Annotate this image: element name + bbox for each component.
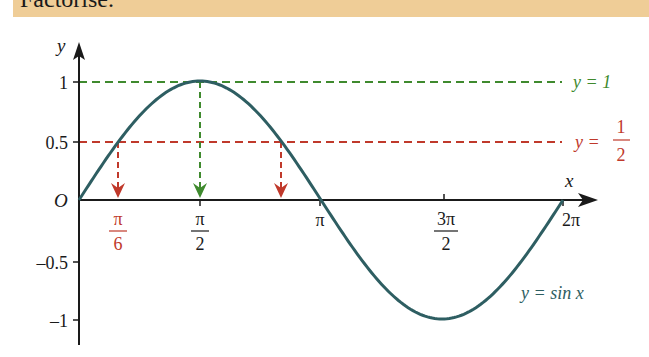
label-y-1: y = 1 xyxy=(571,72,611,92)
svg-text:1: 1 xyxy=(617,117,626,137)
x-tick-2pi: 2π xyxy=(562,210,580,230)
sine-graph: y x O 1 0.5 –0.5 –1 π 6 π 2 π 3π 2 2π y … xyxy=(0,0,649,357)
y-tick-neg-1: –1 xyxy=(49,311,68,331)
y-tick-neg-0.5: –0.5 xyxy=(36,253,69,273)
x-tick-pi-6: π 6 xyxy=(109,209,127,254)
origin-label: O xyxy=(54,190,68,211)
y-axis-label: y xyxy=(55,35,66,56)
drop-arrow-pi-2 xyxy=(193,82,207,198)
x-tick-3pi-2: 3π 2 xyxy=(434,209,458,254)
svg-text:3π: 3π xyxy=(437,209,455,229)
svg-text:6: 6 xyxy=(114,234,123,254)
svg-text:2: 2 xyxy=(196,234,205,254)
svg-text:π: π xyxy=(195,209,204,229)
x-axis-label: x xyxy=(564,170,574,191)
curve-label: y = sin x xyxy=(519,283,584,303)
svg-text:y =: y = xyxy=(573,132,600,152)
svg-text:2: 2 xyxy=(442,234,451,254)
label-y-half: y = 1 2 xyxy=(573,117,630,165)
y-tick-1: 1 xyxy=(59,73,68,93)
y-tick-0.5: 0.5 xyxy=(46,133,69,153)
x-tick-pi: π xyxy=(315,210,324,230)
svg-text:2: 2 xyxy=(617,145,626,165)
svg-text:π: π xyxy=(113,209,122,229)
drop-arrow-5pi-6 xyxy=(274,142,288,198)
x-tick-pi-2: π 2 xyxy=(191,209,209,254)
